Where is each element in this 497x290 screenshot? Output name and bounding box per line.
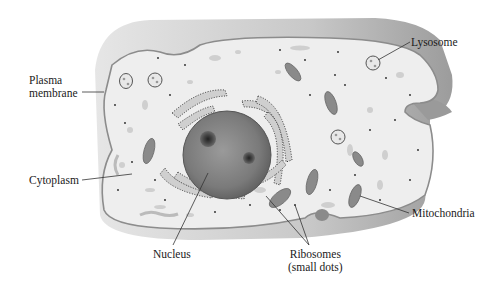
label-nucleus: Nucleus [153,248,191,261]
lysosome [148,73,162,87]
lysosome [120,74,133,89]
label-lysosome: Lysosome [411,36,458,49]
label-cytoplasm: Cytoplasm [29,174,79,187]
vesicle [315,209,329,221]
nucleolus [243,152,255,164]
nucleolus [200,131,216,147]
label-plasma-membrane: Plasma membrane [29,74,78,100]
label-mitochondria: Mitochondria [412,207,475,220]
label-ribosomes: Ribosomes (small dots) [288,248,343,274]
nucleus [183,111,271,199]
lysosome [366,56,380,70]
lysosome [331,130,345,144]
